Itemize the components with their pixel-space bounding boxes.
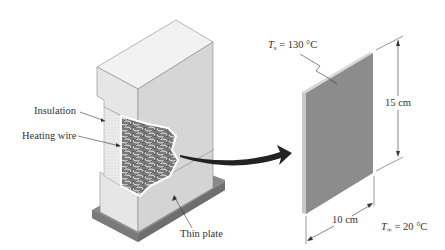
heated-plate-diagram: Insulation Heating wire Thin plate Ts = … bbox=[0, 0, 445, 250]
surface-temperature-label: Ts = 130 °C bbox=[268, 40, 317, 52]
insulation-label: Insulation bbox=[34, 106, 76, 117]
ts-subscript: s bbox=[274, 44, 277, 52]
tinf-value: = 20 °C bbox=[394, 221, 427, 232]
ts-value: = 130 °C bbox=[279, 39, 317, 50]
diagram-graphic bbox=[0, 0, 445, 250]
thin-plate-label: Thin plate bbox=[180, 229, 223, 240]
width-label: 10 cm bbox=[332, 215, 358, 226]
heating-wire-label: Heating wire bbox=[22, 131, 77, 142]
ambient-temperature-label: T∞ = 20 °C bbox=[381, 222, 427, 234]
height-label: 15 cm bbox=[385, 98, 411, 109]
plate bbox=[302, 52, 373, 214]
tinf-subscript: ∞ bbox=[387, 226, 392, 234]
